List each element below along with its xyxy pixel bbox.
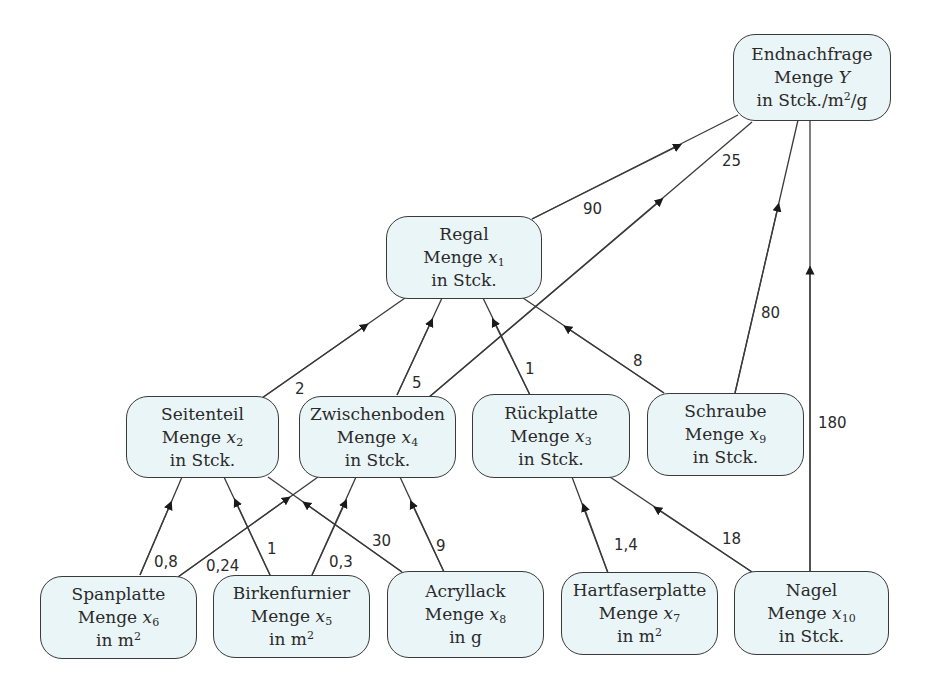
node-quantity: Menge x10 [767,602,855,625]
node-title: Seitenteil [161,403,244,426]
node-quantity: Menge x1 [423,246,504,269]
node-unit: in Stck. [345,449,411,472]
node-quantity: Menge x8 [425,603,506,626]
node-unit: in m2 [96,629,141,652]
edge-label-zwischenboden-regal: 5 [412,374,422,392]
node-title: Nagel [786,579,837,602]
node-title: Zwischenboden [310,403,445,426]
edge-label-nagel-endnachfrage: 180 [818,414,847,432]
node-regal: Regal Menge x1 in Stck. [386,216,542,299]
node-rueckplatte: Rückplatte Menge x3 in Stck. [472,394,630,478]
node-quantity: Menge x6 [78,606,159,629]
edge-label-regal-endnachfrage: 90 [583,200,602,218]
node-quantity: Menge Y [774,66,850,89]
node-title: Spanplatte [72,583,166,606]
node-unit: in Stck. [518,448,584,471]
edge-label-acryllack-zwischenboden: 9 [436,537,446,555]
node-unit: in Stck. [779,625,845,648]
edge-label-nagel-rueckplatte: 18 [722,530,741,548]
node-quantity: Menge x7 [599,602,680,625]
edge-label-zwischenboden-endnachfrage: 25 [722,152,741,170]
node-unit: in m2 [617,625,662,648]
node-title: Rückplatte [504,402,598,425]
edge-label-hartfaserplatte-rueckplatte: 1,4 [614,536,638,554]
node-title: Hartfaserplatte [573,579,706,602]
node-hartfaserplatte: Hartfaserplatte Menge x7 in m2 [561,572,718,655]
node-zwischenboden: Zwischenboden Menge x4 in Stck. [299,396,456,478]
node-spanplatte: Spanplatte Menge x6 in m2 [40,576,197,659]
node-seitenteil: Seitenteil Menge x2 in Stck. [126,396,279,478]
edge-label-birkenfurnier-zwischenboden: 0,3 [329,553,353,571]
edge-label-seitenteil-regal: 2 [295,380,305,398]
node-title: Endnachfrage [751,43,872,66]
node-quantity: Menge x2 [162,426,243,449]
edge-label-acryllack-seitenteil: 30 [372,532,391,550]
node-quantity: Menge x5 [251,605,332,628]
node-unit: in g [449,626,482,649]
node-unit: in Stck./m2/g [757,89,868,112]
node-unit: in Stck. [693,446,759,469]
node-title: Acryllack [425,580,505,603]
node-quantity: Menge x9 [685,423,766,446]
node-title: Schraube [684,400,766,423]
edge-label-schraube-endnachfrage: 80 [761,304,780,322]
node-unit: in Stck. [431,269,497,292]
node-unit: in Stck. [170,449,236,472]
edge-label-spanplatte-zwischenboden: 0,24 [206,557,239,575]
node-quantity: Menge x3 [510,425,591,448]
edge-label-rueckplatte-regal: 1 [525,360,535,378]
node-title: Birkenfurnier [233,582,350,605]
edge-label-birkenfurnier-seitenteil: 1 [267,540,277,558]
edge-label-schraube-regal: 8 [633,352,643,370]
node-unit: in m2 [269,628,314,651]
node-acryllack: Acryllack Menge x8 in g [387,571,544,658]
node-quantity: Menge x4 [337,426,418,449]
node-title: Regal [439,223,488,246]
node-endnachfrage: Endnachfrage Menge Y in Stck./m2/g [733,34,891,121]
node-nagel: Nagel Menge x10 in Stck. [734,571,889,655]
edge-label-spanplatte-seitenteil: 0,8 [154,553,178,571]
node-schraube: Schraube Menge x9 in Stck. [647,393,804,476]
node-birkenfurnier: Birkenfurnier Menge x5 in m2 [213,575,370,658]
